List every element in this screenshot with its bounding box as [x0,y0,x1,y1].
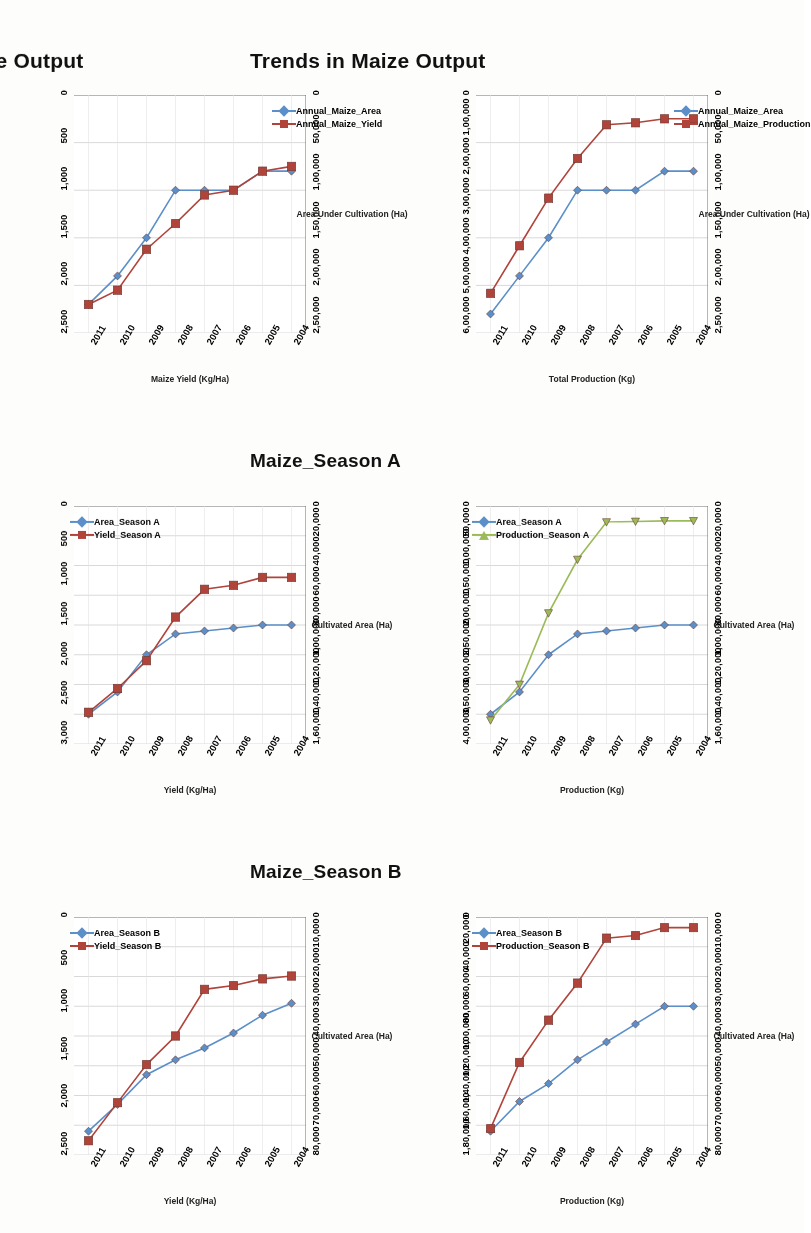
data-point [201,1044,209,1052]
legend-label: Annual_Maize_Area [296,106,381,116]
data-point [84,708,92,716]
data-point [545,610,553,617]
legend-label: Annual_Maize_Production [698,119,811,129]
data-point [84,300,92,308]
data-point [661,167,669,175]
data-point [172,1056,180,1064]
legend-label: Production_Season A [496,530,589,540]
data-point [200,191,208,199]
y-axis-left-title: Area Under Cultivation (Ha) [699,209,810,219]
data-point [515,1058,523,1066]
data-point [603,186,611,194]
y-axis-left-title: Area Under Cultivation (Ha) [297,209,408,219]
legend-key [674,105,698,117]
chart-legend: Area_Season AYield_Season A [70,516,161,542]
data-point [602,121,610,129]
data-point [113,684,121,692]
series-line [491,928,694,1129]
legend-marker-diamond [76,516,87,527]
data-point [515,242,523,250]
data-point [574,186,582,194]
chart-legend: Area_Season AProduction_Season A [472,516,589,542]
legend-marker-diamond [478,516,489,527]
data-point [602,934,610,942]
legend-marker-square [78,942,86,950]
data-point [603,627,611,635]
legend-marker-triangle [479,531,489,540]
y-axis-right-title: Yield (Kg/Ha) [164,785,217,795]
series-line [89,166,292,304]
data-point [573,154,581,162]
legend-item: Area_Season A [70,516,161,528]
legend-label: Yield_Season A [94,530,161,540]
data-point [229,186,237,194]
legend-item: Annual_Maize_Production [674,118,811,130]
chart-season-b-area-yield: Maize_Season B010,00020,00030,00040,0005… [0,822,402,1233]
data-point [259,1011,267,1019]
legend-label: Yield_Season B [94,941,161,951]
chart-title: Maize_Season A [0,450,80,472]
data-point [689,923,697,931]
data-point [229,581,237,589]
data-point [603,1038,611,1046]
series-line [89,976,292,1141]
data-point [171,613,179,621]
data-point [288,621,296,629]
chart-annual-area-production: Trends in Maize Output050,0001,00,0001,5… [402,0,804,411]
data-point [84,1137,92,1145]
legend-label: Area_Season B [496,928,562,938]
chart-legend: Annual_Maize_AreaAnnual_Maize_Production [674,105,811,131]
data-point [690,167,698,175]
data-point [690,1002,698,1010]
y-axis-right-title: Production (Kg) [560,1196,624,1206]
y-axis-right-title: Maize Yield (Kg/Ha) [151,374,229,384]
legend-key [472,516,496,528]
data-point [113,286,121,294]
data-point [487,717,495,724]
data-point [172,186,180,194]
legend-item: Production_Season B [472,940,590,952]
series-line [89,625,292,714]
legend-label: Production_Season B [496,941,590,951]
data-point [258,573,266,581]
data-point [259,621,267,629]
legend-key [472,927,496,939]
legend-item: Area_Season B [70,927,161,939]
legend-key [272,105,296,117]
data-point [544,194,552,202]
legend-marker-square [682,120,690,128]
legend-key [70,516,94,528]
data-point [690,621,698,629]
legend-marker-square [280,120,288,128]
data-point [632,186,640,194]
data-point [200,585,208,593]
data-point [660,115,668,123]
legend-key [472,940,496,952]
data-point [632,1020,640,1028]
y-axis-left-title: Cultivated Area (Ha) [714,620,795,630]
series-line [491,1006,694,1131]
legend-item: Annual_Maize_Yield [272,118,382,130]
data-point [631,931,639,939]
data-point [573,979,581,987]
legend-item: Area_Season A [472,516,589,528]
legend-label: Annual_Maize_Yield [296,119,382,129]
legend-item: Yield_Season A [70,529,161,541]
data-point [287,573,295,581]
data-point [258,167,266,175]
data-point [113,1098,121,1106]
data-point [142,1060,150,1068]
data-point [142,245,150,253]
legend-key [70,940,94,952]
legend-label: Area_Season A [496,517,562,527]
legend-item: Annual_Maize_Area [272,105,382,117]
legend-key [70,529,94,541]
chart-season-a-area-production: Maize_Season A020,00040,00060,00080,0001… [402,411,804,822]
data-point [200,985,208,993]
legend-item: Annual_Maize_Area [674,105,811,117]
data-point [486,289,494,297]
legend-key [272,118,296,130]
legend-marker-square [480,942,488,950]
